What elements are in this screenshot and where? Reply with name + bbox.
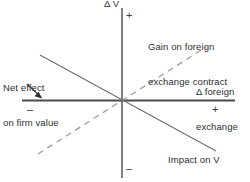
gain-label-line-1: Gain on foreign — [148, 41, 227, 53]
net-effect-on-firm-value-label: Net effect on firm value — [3, 59, 59, 151]
axis-sign-bottom-negative: – — [126, 163, 132, 174]
horizontal-axis-label: Δ foreign exchange — [196, 63, 238, 155]
horizontal-axis-label-line-2: exchange — [196, 121, 238, 133]
vertical-axis-label: Δ V — [104, 0, 119, 10]
axis-sign-top-positive: + — [126, 10, 132, 21]
net-effect-label-line-2: on firm value — [3, 117, 59, 129]
figure-canvas: Δ V + + – – Gain on foreign exchange con… — [0, 0, 250, 182]
impact-on-v-label: Impact on V — [168, 154, 220, 166]
net-effect-label-line-1: Net effect — [3, 82, 59, 94]
horizontal-axis-label-line-1: Δ foreign — [196, 86, 238, 98]
